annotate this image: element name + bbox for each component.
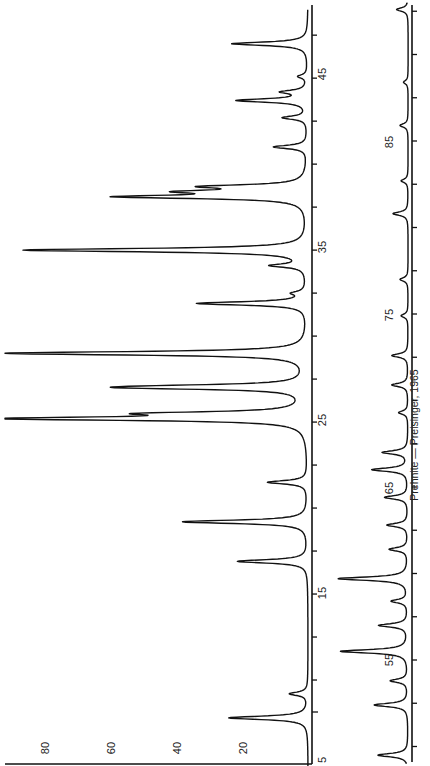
- chart-caption: Prehnite — Preisinger, 1965: [408, 369, 420, 500]
- upper-diffraction-trace: [5, 10, 308, 766]
- xrd-pattern-chart: 80 60 40 20 5 15 25 35 45 55 65 75 85 Pr…: [0, 0, 430, 766]
- lower-diffraction-trace: [338, 3, 408, 764]
- intensity-axis: 80 60 40 20: [5, 705, 318, 764]
- two-theta-label-85: 85: [383, 136, 395, 148]
- two-theta-label-5: 5: [316, 757, 328, 763]
- two-theta-label-65: 65: [383, 482, 395, 494]
- two-theta-label-25: 25: [316, 414, 328, 426]
- intensity-tick-60: 60: [105, 742, 117, 754]
- two-theta-label-55: 55: [383, 654, 395, 666]
- two-theta-label-35: 35: [316, 241, 328, 253]
- intensity-tick-80: 80: [39, 742, 51, 754]
- two-theta-label-15: 15: [316, 587, 328, 599]
- two-theta-label-75: 75: [383, 309, 395, 321]
- intensity-tick-40: 40: [171, 742, 183, 754]
- intensity-tick-20: 20: [237, 742, 249, 754]
- two-theta-label-45: 45: [316, 68, 328, 80]
